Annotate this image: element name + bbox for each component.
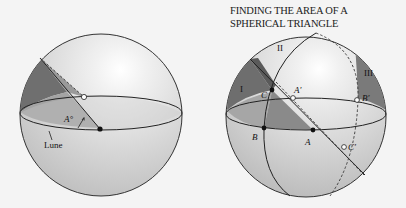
lune-label: Lune bbox=[44, 140, 63, 150]
point-C bbox=[270, 88, 275, 93]
label-B-prime: B′ bbox=[362, 93, 370, 103]
antipode-point bbox=[81, 94, 86, 99]
label-A: A bbox=[304, 137, 311, 147]
point-B bbox=[262, 126, 267, 131]
angle-label: A° bbox=[63, 114, 73, 124]
point-C-prime bbox=[342, 145, 347, 150]
point-A-prime bbox=[291, 96, 296, 101]
label-A-prime: A′ bbox=[293, 85, 302, 95]
left-sphere: A° Lune bbox=[20, 34, 182, 196]
point-B-prime bbox=[355, 98, 360, 103]
label-C-prime: C′ bbox=[348, 142, 357, 152]
label-C: C bbox=[261, 90, 268, 100]
right-sphere: I II III C A′ B′ B A C′ bbox=[226, 33, 386, 197]
vertex-point bbox=[97, 126, 102, 131]
point-A bbox=[311, 128, 316, 133]
region-II-label: II bbox=[277, 43, 283, 53]
region-III-label: III bbox=[364, 68, 373, 78]
region-I-label: I bbox=[240, 84, 243, 94]
figure-canvas: A° Lune bbox=[0, 0, 406, 208]
label-B: B bbox=[252, 132, 258, 142]
